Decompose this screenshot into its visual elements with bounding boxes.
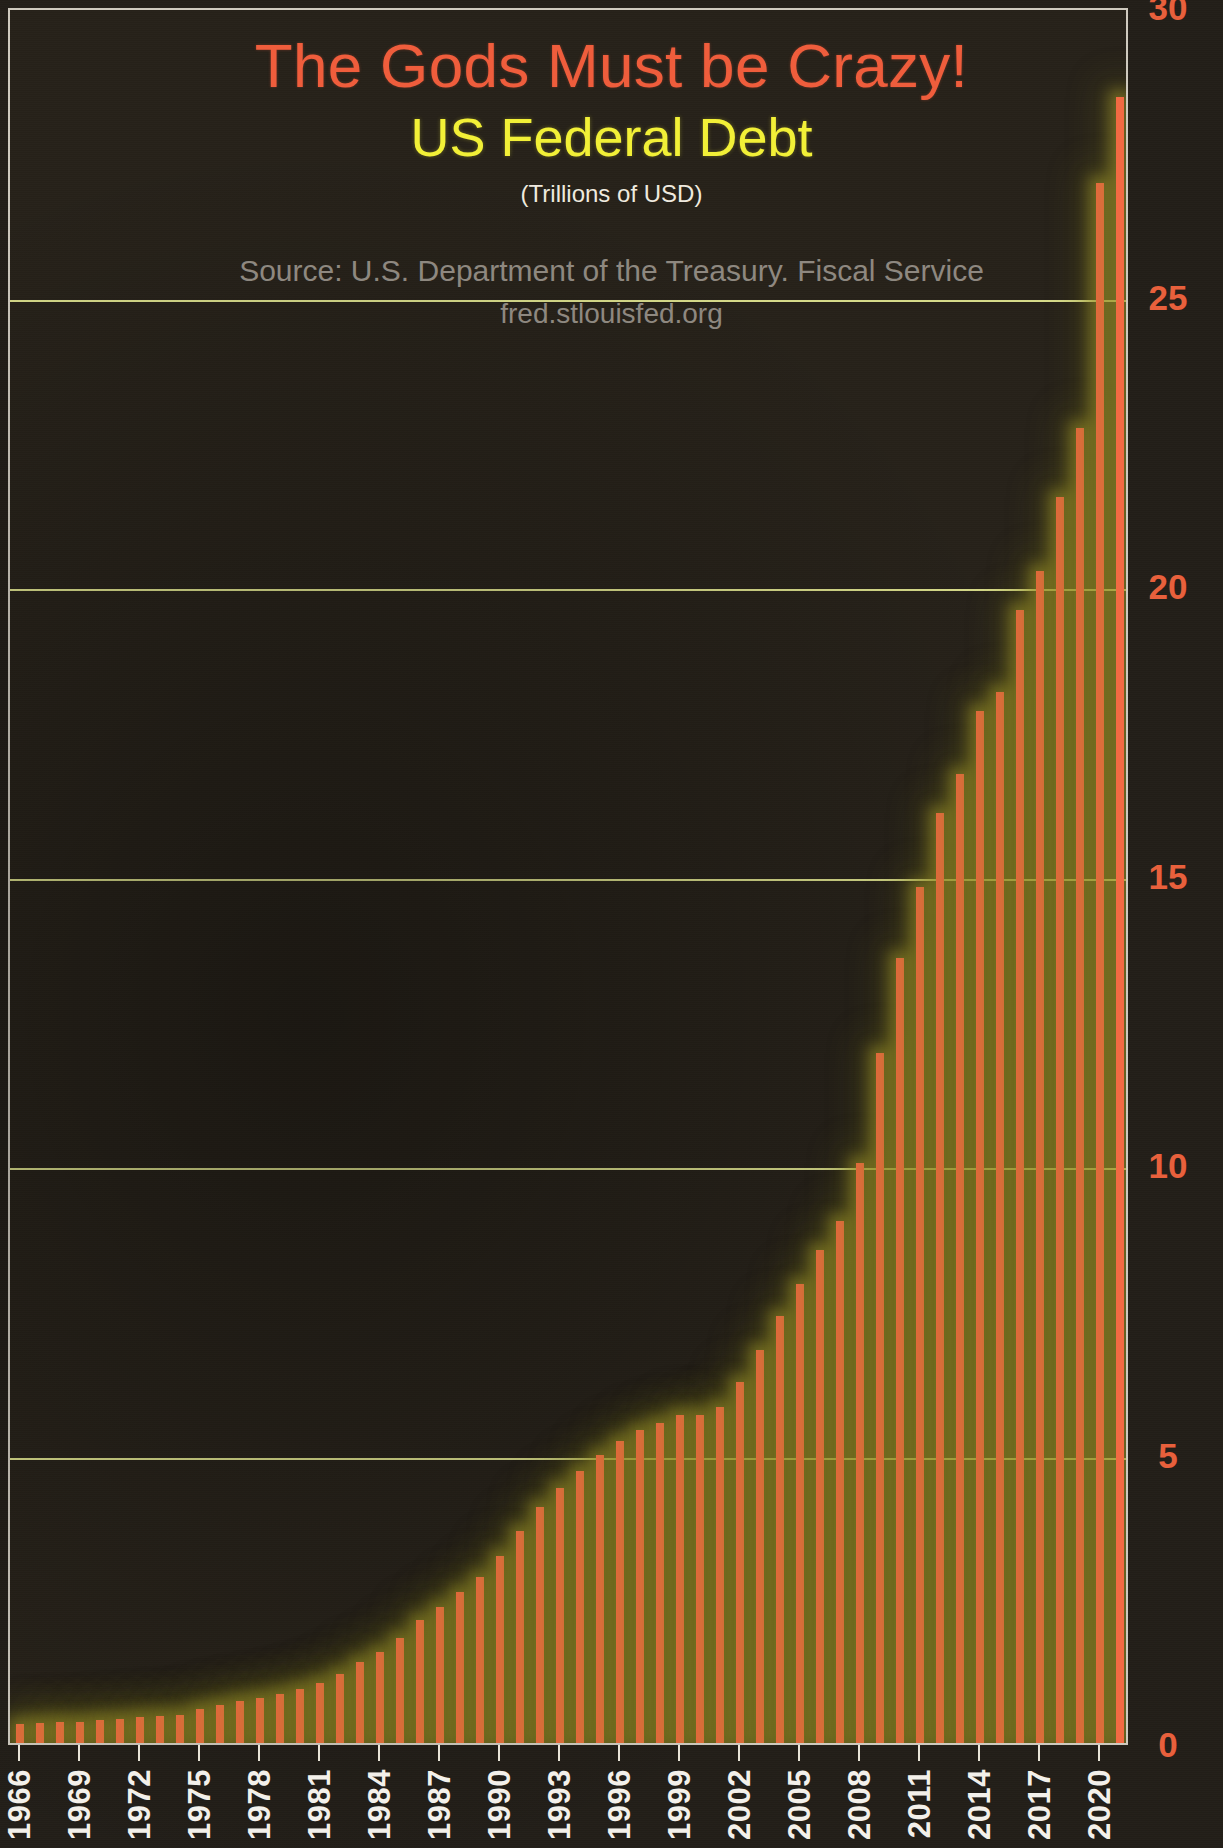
bar xyxy=(36,1723,44,1743)
x-axis-tick-mark-2017 xyxy=(1038,1745,1040,1761)
bar xyxy=(416,1620,424,1743)
bar xyxy=(156,1716,164,1743)
x-axis-tick-label-1987: 1987 xyxy=(422,1769,458,1840)
x-axis-tick-label-1999: 1999 xyxy=(662,1769,698,1840)
x-axis: 1966196919721975197819811984198719901993… xyxy=(8,1745,1128,1848)
bar xyxy=(756,1350,764,1743)
x-axis-tick-label-1981: 1981 xyxy=(302,1769,338,1840)
x-axis-tick-mark-1996 xyxy=(618,1745,620,1761)
bar xyxy=(56,1722,64,1743)
bar xyxy=(556,1488,564,1743)
bar xyxy=(276,1694,284,1743)
bars-group xyxy=(10,10,1126,1743)
x-axis-tick-label-1996: 1996 xyxy=(602,1769,638,1840)
x-axis-tick-label-2014: 2014 xyxy=(962,1769,998,1840)
x-axis-tick-label-2008: 2008 xyxy=(842,1769,878,1840)
x-axis-tick-mark-1987 xyxy=(438,1745,440,1761)
x-axis-tick-label-1978: 1978 xyxy=(242,1769,278,1840)
bar xyxy=(896,958,904,1743)
bar xyxy=(876,1053,884,1743)
bar xyxy=(96,1720,104,1743)
bar xyxy=(116,1719,124,1743)
bar xyxy=(216,1705,224,1743)
x-axis-tick-mark-2008 xyxy=(858,1745,860,1761)
bar xyxy=(356,1662,364,1743)
bar xyxy=(1056,497,1064,1743)
y-axis-tick-15: 15 xyxy=(1136,857,1200,897)
x-axis-tick-label-1969: 1969 xyxy=(62,1769,98,1840)
bar xyxy=(436,1607,444,1743)
x-axis-tick-mark-2011 xyxy=(918,1745,920,1761)
bar xyxy=(256,1698,264,1743)
chart-figure: The Gods Must be Crazy! US Federal Debt … xyxy=(0,0,1223,1848)
x-axis-tick-label-2005: 2005 xyxy=(782,1769,818,1840)
bar xyxy=(376,1652,384,1743)
x-axis-tick-mark-1978 xyxy=(258,1745,260,1761)
bar xyxy=(296,1689,304,1743)
x-axis-tick-mark-1966 xyxy=(18,1745,20,1761)
x-axis-tick-label-2017: 2017 xyxy=(1022,1769,1058,1840)
y-axis-tick-5: 5 xyxy=(1136,1436,1200,1476)
x-axis-tick-label-2020: 2020 xyxy=(1082,1769,1118,1840)
bar xyxy=(636,1430,644,1743)
y-axis-tick-25: 25 xyxy=(1136,278,1200,318)
bar xyxy=(196,1709,204,1743)
bar xyxy=(236,1701,244,1743)
x-axis-tick-mark-2002 xyxy=(738,1745,740,1761)
bar xyxy=(396,1638,404,1743)
x-axis-tick-mark-1969 xyxy=(78,1745,80,1761)
bar xyxy=(776,1316,784,1743)
x-axis-tick-label-2011: 2011 xyxy=(902,1769,938,1838)
bar xyxy=(516,1531,524,1743)
x-axis-tick-mark-1990 xyxy=(498,1745,500,1761)
bar xyxy=(956,774,964,1743)
bar xyxy=(696,1415,704,1743)
x-axis-tick-mark-1975 xyxy=(198,1745,200,1761)
y-axis-tick-10: 10 xyxy=(1136,1146,1200,1186)
bar xyxy=(616,1441,624,1743)
bar xyxy=(916,887,924,1743)
x-axis-tick-mark-2020 xyxy=(1098,1745,1100,1761)
x-axis-tick-mark-1999 xyxy=(678,1745,680,1761)
bar xyxy=(816,1250,824,1743)
bar xyxy=(856,1163,864,1743)
x-axis-tick-label-1984: 1984 xyxy=(362,1769,398,1840)
x-axis-tick-mark-2014 xyxy=(978,1745,980,1761)
bar xyxy=(596,1455,604,1743)
bar xyxy=(656,1423,664,1743)
y-axis: 051015202530 xyxy=(1136,0,1223,1848)
x-axis-tick-mark-1993 xyxy=(558,1745,560,1761)
x-axis-tick-label-1975: 1975 xyxy=(182,1769,218,1840)
bar xyxy=(476,1577,484,1743)
x-axis-tick-label-1993: 1993 xyxy=(542,1769,578,1840)
bar xyxy=(736,1382,744,1743)
x-axis-tick-mark-1981 xyxy=(318,1745,320,1761)
bar xyxy=(76,1722,84,1743)
x-axis-tick-mark-2005 xyxy=(798,1745,800,1761)
bar xyxy=(456,1592,464,1743)
y-axis-tick-30: 30 xyxy=(1136,0,1200,28)
bar xyxy=(1036,571,1044,1743)
bar xyxy=(936,813,944,1743)
bar xyxy=(1016,610,1024,1743)
bar xyxy=(976,711,984,1743)
bar xyxy=(716,1407,724,1743)
bar xyxy=(176,1715,184,1743)
bar xyxy=(676,1415,684,1743)
bar xyxy=(316,1683,324,1743)
bar xyxy=(336,1674,344,1743)
y-axis-tick-0: 0 xyxy=(1136,1725,1200,1765)
x-axis-tick-label-2002: 2002 xyxy=(722,1769,758,1840)
bar xyxy=(536,1507,544,1743)
bar xyxy=(1096,183,1104,1743)
y-axis-tick-20: 20 xyxy=(1136,567,1200,607)
x-axis-tick-mark-1984 xyxy=(378,1745,380,1761)
bar xyxy=(1116,97,1124,1743)
bar xyxy=(16,1724,24,1743)
bar xyxy=(136,1717,144,1743)
bar xyxy=(996,692,1004,1743)
x-axis-tick-label-1972: 1972 xyxy=(122,1769,158,1840)
bar xyxy=(496,1556,504,1743)
bar xyxy=(836,1221,844,1743)
x-axis-tick-label-1966: 1966 xyxy=(2,1769,38,1840)
